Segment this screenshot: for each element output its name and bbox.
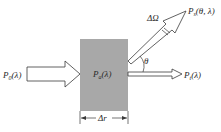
scattered-label: Ps(θ, λ) [187,6,215,17]
transmitted-arrow [128,69,182,79]
thickness-label: Δr [97,113,107,123]
dim-arrowhead-right [122,116,127,120]
incident-arrow [27,61,80,87]
scattering-diagram: P0(λ) Pa(λ) Pt(λ) Ps(θ, λ) ΔΩ θ Δr [0,0,221,132]
absorbed-label: Pa(λ) [92,69,111,80]
incident-label: P0(λ) [2,70,21,81]
dim-arrowhead-left [81,116,86,120]
angle-label: θ [144,56,149,66]
solid-angle-label: ΔΩ [146,13,159,23]
transmitted-label: Pt(λ) [183,70,201,81]
